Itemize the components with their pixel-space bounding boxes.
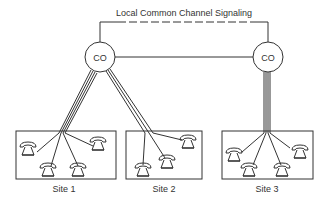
telephone-icon <box>180 135 196 148</box>
telephone-icon <box>20 142 36 155</box>
telephone-icon <box>274 163 290 176</box>
site3-label: Site 3 <box>255 184 278 194</box>
site3-lines <box>242 72 290 165</box>
telephone-icon <box>40 163 56 176</box>
telephone-icon <box>292 145 308 158</box>
site1-lines <box>37 70 97 166</box>
site3-phones <box>226 145 308 176</box>
site2-label: Site 2 <box>152 184 175 194</box>
signaling-label: Local Common Channel Signaling <box>116 8 252 18</box>
co-label-right: CO <box>261 53 275 63</box>
telephone-icon <box>226 148 242 161</box>
site2-lines <box>106 69 182 165</box>
co-node-right: CO <box>253 42 283 72</box>
common-channel-signaling-link <box>100 22 268 42</box>
co-node-left: CO <box>85 42 115 72</box>
telephone-icon <box>159 155 175 168</box>
telephone-icon <box>90 137 106 150</box>
network-diagram: Local Common Channel Signaling CO CO <box>0 0 329 200</box>
site1-label: Site 1 <box>52 184 75 194</box>
site3-box <box>222 131 313 179</box>
telephone-icon <box>241 163 257 176</box>
co-label-left: CO <box>93 53 107 63</box>
site1-phones <box>20 137 106 176</box>
